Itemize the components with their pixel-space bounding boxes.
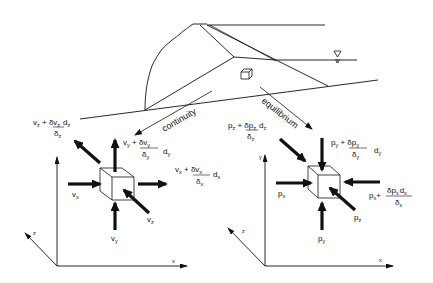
- svg-text:δpxdx: δpxdx: [387, 186, 407, 196]
- svg-text:δy: δy: [142, 150, 149, 160]
- px-label: px: [278, 189, 285, 199]
- svg-text:vz + δvzdz: vz + δvzdz: [33, 118, 71, 128]
- svg-text:δx: δx: [196, 177, 203, 187]
- py-top-label: py + δpy δy dy: [331, 138, 381, 160]
- svg-text:δz: δz: [54, 129, 61, 139]
- svg-text:py + δpy: py + δpy: [331, 138, 359, 148]
- right-z-axis-label: z: [242, 228, 245, 234]
- vy-top-label: vy + δvy δy dy: [123, 138, 170, 160]
- svg-text:vx + δvx: vx + δvx: [175, 165, 202, 175]
- svg-text:dx: dx: [213, 170, 220, 180]
- vx-right-label: vx + δvx δx dx: [175, 165, 220, 187]
- right-y-axis-label: y: [259, 154, 262, 160]
- left-x-axis-label: x: [172, 258, 175, 264]
- svg-text:dy: dy: [163, 147, 170, 157]
- dam-diagram: continuity equilibrium x z: [0, 0, 433, 283]
- px-right-label: px+ δpxdx δx: [369, 186, 412, 208]
- downstream-face: [145, 24, 193, 110]
- right-element: y x z pz + δpzdz δz py + δpy: [228, 121, 412, 266]
- svg-text:δy: δy: [352, 150, 359, 160]
- vz-bottom-arrow: [124, 190, 149, 213]
- py-label: py: [318, 234, 325, 244]
- foundation-line: [80, 80, 378, 119]
- svg-text:vy + δvy: vy + δvy: [123, 138, 150, 148]
- vx-label: vx: [72, 190, 79, 200]
- vz-top-label: vz + δvzdz δz: [33, 118, 71, 139]
- pz-label: pz: [354, 213, 361, 223]
- svg-text:δz: δz: [247, 132, 254, 142]
- svg-text:pz + δpzdz: pz + δpzdz: [228, 121, 266, 131]
- pz-top-label: pz + δpzdz δz: [228, 121, 266, 142]
- pz-top-arrow: [280, 139, 305, 161]
- right-z-axis: [228, 228, 265, 266]
- left-element: x z vz + δvzdz δz vy + δvy: [25, 118, 220, 266]
- water-level-icon: [334, 51, 341, 62]
- soil-element-cube-icon: [241, 69, 252, 79]
- upstream-slope: [276, 60, 328, 86]
- vz-top-arrow: [75, 141, 100, 163]
- dam-cross-section: [80, 24, 378, 119]
- left-z-axis: [25, 233, 57, 266]
- svg-text:dy: dy: [374, 146, 381, 156]
- svg-text:px+: px+: [369, 191, 381, 201]
- svg-text:δx: δx: [395, 198, 402, 208]
- inner-diagonal: [145, 57, 234, 110]
- right-x-axis-label: x: [379, 257, 382, 263]
- vy-label: vy: [111, 234, 118, 244]
- vz-label: vz: [147, 215, 154, 225]
- pz-bottom-arrow: [330, 188, 355, 210]
- left-z-axis-label: z: [33, 230, 36, 236]
